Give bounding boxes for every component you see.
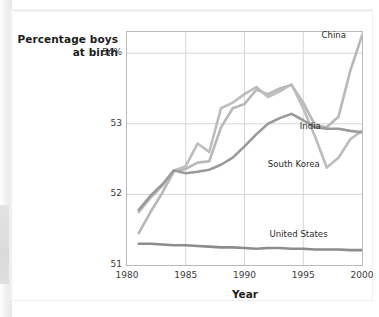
series-label-india: India <box>300 121 321 131</box>
x-tick-1995: 1995 <box>283 270 323 280</box>
x-tick-1980: 1980 <box>107 270 147 280</box>
x-tick-2000: 2000 <box>342 270 379 280</box>
x-tick-1990: 1990 <box>225 270 265 280</box>
series-line-india <box>139 114 362 210</box>
series-label-china: China <box>322 30 347 40</box>
y-tick-51: 51 <box>84 259 122 269</box>
x-axis-title: Year <box>126 288 364 300</box>
y-tick-52: 52 <box>84 188 122 198</box>
series-line-south-korea <box>139 84 362 212</box>
series-lines-group <box>139 36 362 251</box>
series-label-united-states: United States <box>269 229 327 239</box>
line-chart: Percentage boys at birth 51525354% 19801… <box>0 0 379 317</box>
series-line-united-states <box>139 244 362 250</box>
y-axis-title-line1: Percentage boys <box>17 33 118 45</box>
y-tick-53: 53 <box>84 118 122 128</box>
series-label-south-korea: South Korea <box>268 159 320 169</box>
x-tick-1985: 1985 <box>166 270 206 280</box>
y-tick-54%: 54% <box>84 47 122 57</box>
series-line-china <box>139 36 362 234</box>
